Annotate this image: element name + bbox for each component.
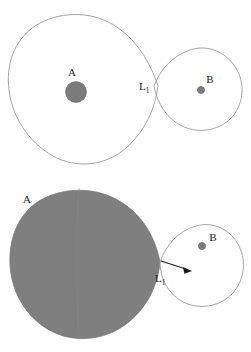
roche-lobe-primary-filled (10, 190, 160, 338)
bottom-panel-diagram: A B L1 (0, 176, 251, 352)
label-lagrange-point: L1 (139, 80, 150, 95)
mass-transfer-arrow-head (183, 267, 192, 274)
label-lagrange-subscript: 1 (162, 278, 166, 287)
star-b-body (197, 86, 204, 93)
mass-transfer-arrow-shaft (161, 261, 186, 269)
label-lagrange-point: L1 (155, 272, 166, 287)
roche-lobe-secondary-outline (160, 225, 243, 307)
top-panel-diagram: A B L1 (0, 0, 251, 176)
label-star-a: A (23, 193, 31, 205)
figure-root: A B L1 A B L1 (0, 0, 251, 352)
label-star-a: A (68, 66, 76, 78)
star-a-body (66, 82, 87, 103)
label-lagrange-subscript: 1 (146, 86, 150, 95)
label-star-b: B (206, 73, 213, 85)
label-star-b: B (209, 231, 216, 243)
star-b-body (198, 242, 205, 249)
